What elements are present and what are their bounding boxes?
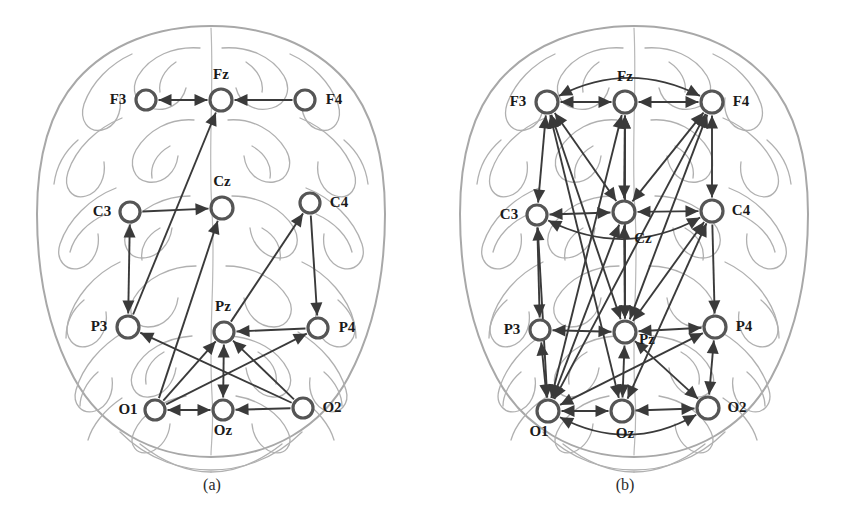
electrode-node-O2[interactable] [697,397,719,419]
electrode-label-P3: P3 [91,318,108,334]
electrode-node-C4[interactable] [300,193,320,213]
edge-Fz-F4 [639,96,699,108]
edge-P3-O1 [537,342,552,397]
electrode-label-O2: O2 [727,399,746,415]
electrode-node-C4[interactable] [701,200,723,222]
edge-C4-P4 [708,224,720,313]
electrode-label-F4: F4 [326,91,343,107]
edge-C3-O1 [532,227,552,397]
electrode-label-P4: P4 [339,319,356,335]
electrode-label-Oz: Oz [214,422,233,438]
electrode-label-O2: O2 [322,399,341,415]
electrode-label-Cz: Cz [213,173,231,189]
electrode-label-Fz: Fz [213,66,229,82]
electrode-node-Cz[interactable] [613,201,635,223]
electrode-label-P3: P3 [504,321,521,337]
electrode-label-Cz: Cz [634,230,652,246]
electrode-node-P3[interactable] [530,320,550,340]
electrode-label-O1: O1 [118,401,137,417]
panel-caption-a: (a) [203,476,221,494]
electrode-label-Pz: Pz [639,331,655,347]
edge-layer [122,94,322,416]
edge-P3-Fz [133,112,216,314]
edge-Oz-O2 [635,403,694,416]
edge-F4-Fz [235,94,293,106]
electrode-node-P4[interactable] [308,318,328,338]
edge-Cz-C3 [549,207,610,220]
panel-a: F3FzF4C3CzC4P3PzP4O1OzO2(a) [0,0,423,518]
electrode-label-C3: C3 [93,203,111,219]
electrode-node-F4[interactable] [701,91,723,113]
electrode-node-F3[interactable] [536,91,558,113]
edge-Pz-O2 [635,341,698,399]
electrode-node-Fz[interactable] [210,89,232,111]
panel-a-canvas: F3FzF4C3CzC4P3PzP4O1OzO2(a) [0,0,423,518]
electrode-label-C4: C4 [330,194,349,210]
electrode-label-P4: P4 [736,318,753,334]
electrode-label-F4: F4 [733,93,750,109]
electrode-node-O2[interactable] [293,398,313,418]
edge-P4-O2 [704,340,718,394]
electrode-label-F3: F3 [510,93,527,109]
electrode-label-Oz: Oz [616,425,635,441]
electrode-node-P4[interactable] [704,316,726,338]
electrode-node-F3[interactable] [136,90,156,110]
edge-Cz-O1 [552,225,620,399]
panel-b: F3FzF4C3CzC4P3PzP4O1OzO2(b) [423,0,846,518]
electrode-label-Fz: Fz [617,68,633,84]
electrode-node-O1[interactable] [145,400,165,420]
electrode-node-Oz[interactable] [213,400,233,420]
panel-b-canvas: F3FzF4C3CzC4P3PzP4O1OzO2(b) [423,0,846,518]
electrode-label-C4: C4 [732,202,751,218]
electrode-node-C3[interactable] [120,202,140,222]
electrode-node-Fz[interactable] [614,91,636,113]
electrode-label-F3: F3 [110,91,127,107]
edge-F4-Cz [632,113,703,202]
electrode-label-O1: O1 [529,423,548,439]
edge-F4-O1 [554,114,705,399]
panel-caption-b: (b) [616,476,635,494]
electrode-node-F4[interactable] [295,90,315,110]
electrode-node-Pz[interactable] [214,322,234,342]
electrode-node-P3[interactable] [117,316,139,338]
edge-F4-Pz [629,115,708,320]
electrode-label-C3: C3 [500,206,518,222]
edge-C4-P4 [310,215,322,315]
electrode-label-Pz: Pz [215,298,231,314]
electrode-node-Pz[interactable] [614,321,636,343]
electrode-node-C3[interactable] [527,205,547,225]
electrode-node-Cz[interactable] [211,197,233,219]
edge-O1-Oz [168,404,211,416]
electrode-node-Oz[interactable] [611,400,633,422]
edge-P3-Pz [552,325,611,338]
eeg-connectivity-figure: F3FzF4C3CzC4P3PzP4O1OzO2(a) F3FzF4C3CzC4… [0,0,846,518]
electrode-node-O1[interactable] [537,400,559,422]
